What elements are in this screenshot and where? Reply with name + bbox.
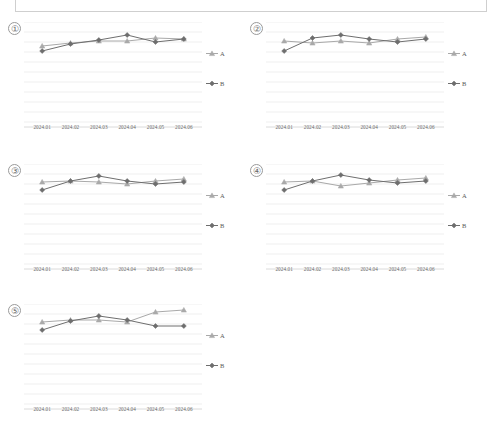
diamond-marker-icon	[448, 220, 460, 231]
x-tick-label: 2024.04	[118, 406, 136, 412]
chart-index-badge: ③	[8, 164, 21, 177]
legend-label: A	[220, 192, 225, 199]
legend-item-B[interactable]: B	[206, 220, 246, 231]
diamond-marker-icon	[206, 360, 218, 371]
triangle-marker-icon	[206, 330, 218, 341]
x-tick-label: 2024.04	[118, 124, 136, 130]
chart-legend: AB	[448, 48, 488, 108]
x-tick-label: 2024.01	[33, 124, 51, 130]
chart-panel-5: ⑤2024.012024.022024.032024.042024.052024…	[6, 300, 246, 440]
x-tick-label: 2024.05	[147, 124, 165, 130]
x-tick-label: 2024.03	[332, 266, 350, 272]
plot-area	[266, 164, 444, 264]
legend-label: B	[220, 222, 224, 229]
legend-label: A	[220, 50, 225, 57]
x-tick-label: 2024.03	[90, 266, 108, 272]
x-tick-label: 2024.04	[360, 266, 378, 272]
x-tick-label: 2024.06	[175, 124, 193, 130]
x-tick-label: 2024.04	[360, 124, 378, 130]
x-tick-label: 2024.06	[175, 266, 193, 272]
legend-item-A[interactable]: A	[448, 190, 488, 201]
legend-item-B[interactable]: B	[448, 220, 488, 231]
triangle-marker-icon	[448, 48, 460, 59]
x-tick-label: 2024.03	[90, 406, 108, 412]
chart-index-badge: ②	[250, 22, 263, 35]
chart-legend: AB	[206, 330, 246, 390]
x-axis-labels: 2024.012024.022024.032024.042024.052024.…	[258, 124, 458, 136]
plot-area	[24, 304, 202, 404]
chart-panel-3: ③2024.012024.022024.032024.042024.052024…	[6, 160, 246, 300]
x-tick-label: 2024.05	[147, 266, 165, 272]
top-panel-box	[15, 0, 487, 12]
triangle-marker-icon	[448, 190, 460, 201]
x-tick-label: 2024.03	[90, 124, 108, 130]
chart-index-badge: ①	[8, 22, 21, 35]
plot-area	[24, 22, 202, 122]
plot-area	[266, 22, 444, 122]
x-tick-label: 2024.06	[417, 124, 435, 130]
x-tick-label: 2024.04	[118, 266, 136, 272]
legend-item-A[interactable]: A	[206, 190, 246, 201]
x-tick-label: 2024.05	[389, 266, 407, 272]
x-tick-label: 2024.01	[275, 266, 293, 272]
legend-label: B	[220, 362, 224, 369]
chart-legend: AB	[448, 190, 488, 250]
chart-index-badge: ⑤	[8, 304, 21, 317]
triangle-marker-icon	[206, 190, 218, 201]
triangle-marker-icon	[206, 48, 218, 59]
x-axis-labels: 2024.012024.022024.032024.042024.052024.…	[258, 266, 458, 278]
x-axis-labels: 2024.012024.022024.032024.042024.052024.…	[16, 266, 216, 278]
x-tick-label: 2024.06	[175, 406, 193, 412]
chart-index-badge: ④	[250, 164, 263, 177]
legend-item-B[interactable]: B	[206, 360, 246, 371]
x-tick-label: 2024.02	[304, 266, 322, 272]
legend-item-B[interactable]: B	[448, 78, 488, 89]
x-tick-label: 2024.01	[33, 266, 51, 272]
legend-label: A	[462, 192, 467, 199]
legend-label: A	[462, 50, 467, 57]
plot-area	[24, 164, 202, 264]
x-tick-label: 2024.01	[33, 406, 51, 412]
legend-label: B	[462, 80, 466, 87]
legend-item-A[interactable]: A	[448, 48, 488, 59]
chart-legend: AB	[206, 190, 246, 250]
diamond-marker-icon	[206, 220, 218, 231]
legend-item-A[interactable]: A	[206, 330, 246, 341]
legend-item-A[interactable]: A	[206, 48, 246, 59]
legend-label: B	[220, 80, 224, 87]
series-B	[40, 314, 187, 333]
series-A	[282, 34, 429, 45]
x-tick-label: 2024.02	[62, 124, 80, 130]
x-tick-label: 2024.01	[275, 124, 293, 130]
x-axis-labels: 2024.012024.022024.032024.042024.052024.…	[16, 406, 216, 418]
x-tick-label: 2024.05	[389, 124, 407, 130]
series-B	[282, 173, 429, 193]
gridlines	[24, 304, 202, 404]
x-axis-labels: 2024.012024.022024.032024.042024.052024.…	[16, 124, 216, 136]
legend-label: B	[462, 222, 466, 229]
diamond-marker-icon	[206, 78, 218, 89]
series-A	[40, 176, 187, 186]
chart-panel-1: ①2024.012024.022024.032024.042024.052024…	[6, 18, 246, 158]
x-tick-label: 2024.02	[304, 124, 322, 130]
x-tick-label: 2024.03	[332, 124, 350, 130]
series-B	[282, 33, 429, 54]
series-B	[40, 33, 187, 54]
chart-panel-4: ④2024.012024.022024.032024.042024.052024…	[248, 160, 488, 300]
series-A	[40, 307, 187, 324]
x-tick-label: 2024.02	[62, 406, 80, 412]
x-tick-label: 2024.05	[147, 406, 165, 412]
legend-label: A	[220, 332, 225, 339]
chart-panel-2: ②2024.012024.022024.032024.042024.052024…	[248, 18, 488, 158]
diamond-marker-icon	[448, 78, 460, 89]
legend-item-B[interactable]: B	[206, 78, 246, 89]
x-tick-label: 2024.06	[417, 266, 435, 272]
x-tick-label: 2024.02	[62, 266, 80, 272]
chart-legend: AB	[206, 48, 246, 108]
page-root: ①2024.012024.022024.032024.042024.052024…	[0, 0, 500, 443]
